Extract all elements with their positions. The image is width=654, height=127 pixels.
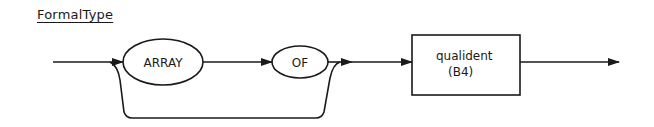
nonterminal-qualident-ref: (B4)	[448, 65, 473, 79]
nonterminal-qualident-label: qualident	[436, 49, 493, 63]
terminal-of-label: OF	[292, 56, 308, 70]
terminal-of: OF	[272, 46, 328, 78]
bypass-path	[110, 62, 340, 118]
terminal-array: ARRAY	[123, 39, 203, 85]
terminal-array-label: ARRAY	[143, 56, 183, 70]
syntax-diagram: ARRAY OF qualident (B4)	[0, 0, 654, 127]
nonterminal-qualident: qualident (B4)	[412, 35, 520, 95]
